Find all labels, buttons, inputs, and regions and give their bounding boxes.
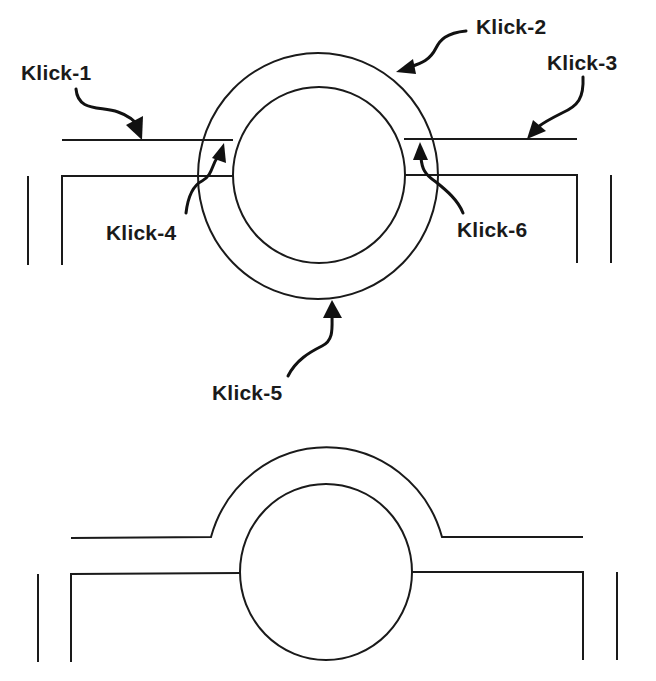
arrow-klick-1	[76, 89, 143, 140]
diagram-canvas	[0, 0, 656, 681]
arrow-head-icon	[413, 142, 428, 160]
arrow-klick-3	[527, 77, 583, 139]
arrow-klick-4	[186, 143, 226, 213]
label-klick-6: Klick-6	[457, 219, 527, 240]
label-klick-1: Klick-1	[21, 62, 91, 83]
inner-circle	[240, 484, 412, 660]
arrow-head-icon	[323, 300, 342, 318]
label-klick-4: Klick-4	[106, 222, 176, 243]
arrow-head-icon	[396, 59, 416, 74]
right-lower-wall-line	[412, 572, 583, 660]
inner-circle	[233, 87, 405, 263]
left-lower-wall-line	[71, 573, 241, 662]
arched-upper-wall-line	[71, 447, 583, 538]
label-klick-5: Klick-5	[212, 382, 282, 403]
arrow-klick-5	[288, 300, 342, 376]
label-klick-3: Klick-3	[547, 52, 617, 73]
label-klick-2: Klick-2	[476, 16, 546, 37]
arrow-klick-2	[396, 31, 466, 74]
top-figure	[28, 53, 611, 299]
bottom-figure	[38, 447, 617, 662]
